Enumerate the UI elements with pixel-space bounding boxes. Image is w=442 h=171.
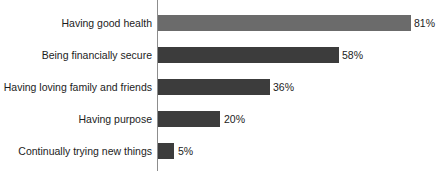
bar-segment [158, 79, 270, 95]
bar-row: Having loving family and friends 36% [0, 79, 442, 95]
bar-segment [158, 47, 339, 63]
bar-value-label: 81% [414, 15, 435, 31]
bar-value-label: 36% [273, 79, 294, 95]
bar-segment [158, 111, 220, 127]
bar-segment [158, 15, 411, 31]
category-label: Having good health [0, 15, 152, 31]
bar-row: Having good health 81% [0, 15, 442, 31]
category-label: Having purpose [0, 111, 152, 127]
bar-row: Having purpose 20% [0, 111, 442, 127]
bar-value-label: 5% [178, 143, 193, 159]
category-label: Continually trying new things [0, 143, 152, 159]
bar-value-label: 58% [342, 47, 363, 63]
bar-row: Continually trying new things 5% [0, 143, 442, 159]
bar-row: Being financially secure 58% [0, 47, 442, 63]
category-label: Having loving family and friends [0, 79, 152, 95]
category-label: Being financially secure [0, 47, 152, 63]
horizontal-bar-chart: Having good health 81% Being financially… [0, 0, 442, 171]
bar-value-label: 20% [224, 111, 245, 127]
bar-segment [158, 143, 174, 159]
